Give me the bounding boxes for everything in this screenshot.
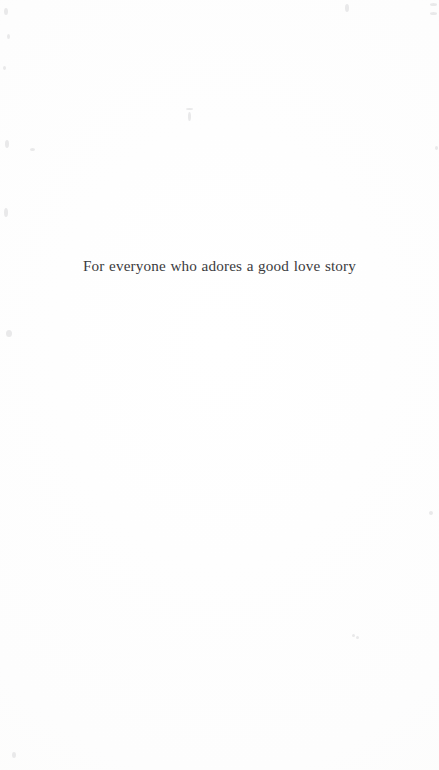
scan-speck <box>12 752 16 758</box>
paper-texture <box>0 0 439 770</box>
scan-speck <box>30 148 35 151</box>
scan-speck <box>356 636 359 639</box>
scan-speck <box>435 146 438 150</box>
document-page: For everyone who adores a good love stor… <box>0 0 439 770</box>
scan-speck <box>6 330 12 337</box>
scan-speck <box>5 140 9 148</box>
dedication-text: For everyone who adores a good love stor… <box>83 256 356 276</box>
scan-speck <box>430 12 437 15</box>
scan-speck <box>188 112 191 121</box>
scan-speck <box>345 4 349 12</box>
scan-speck <box>429 511 433 515</box>
scan-speck <box>4 208 8 217</box>
scan-speck <box>4 8 8 15</box>
scan-speck <box>186 108 193 110</box>
scan-speck <box>7 34 10 39</box>
scan-speck <box>3 66 6 70</box>
scan-speck <box>352 634 355 637</box>
scan-speck <box>430 3 437 6</box>
dedication-block: For everyone who adores a good love stor… <box>0 256 439 276</box>
